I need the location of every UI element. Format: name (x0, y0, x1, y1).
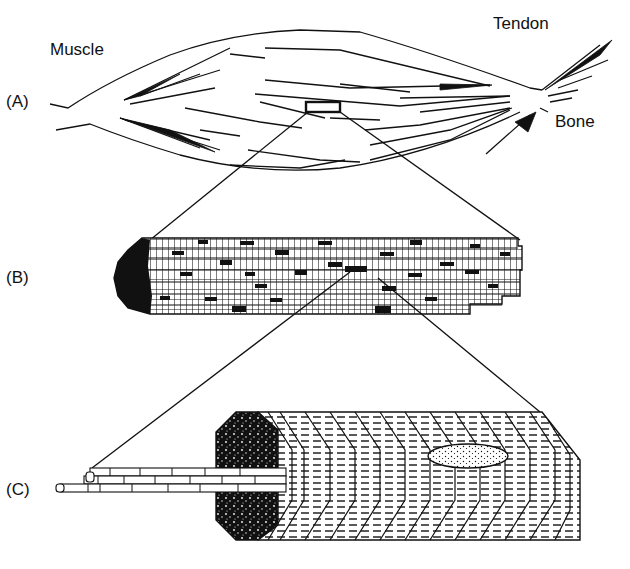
bone-label: Bone (555, 112, 595, 132)
muscle-label: Muscle (50, 40, 104, 60)
panel-c-label: (C) (6, 480, 30, 500)
muscle-structure-diagram (0, 0, 630, 569)
whole-muscle-drawing (50, 30, 612, 240)
panel-a-label: (A) (6, 92, 29, 112)
tendon-label: Tendon (493, 14, 549, 34)
myofibril-drawing (56, 412, 580, 540)
panel-b-label: (B) (6, 268, 29, 288)
